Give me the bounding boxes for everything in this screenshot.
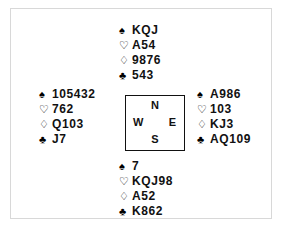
bridge-deal-diagram: ♠ KQJ ♡ A54 ♢ 9876 ♣ 543 ♠ 105432	[0, 0, 286, 229]
hand-north-clubs-row: ♣ 543	[119, 68, 161, 83]
diagram-frame: ♠ KQJ ♡ A54 ♢ 9876 ♣ 543 ♠ 105432	[10, 8, 272, 219]
spade-icon: ♠	[119, 159, 132, 174]
hand-south: ♠ 7 ♡ KQJ98 ♢ A52 ♣ K862	[119, 159, 173, 219]
hand-north: ♠ KQJ ♡ A54 ♢ 9876 ♣ 543	[119, 23, 161, 83]
hand-south-hearts-row: ♡ KQJ98	[119, 174, 173, 189]
hand-east-clubs: AQ109	[210, 132, 251, 147]
heart-icon: ♡	[197, 102, 210, 117]
hand-north-diamonds: 9876	[132, 53, 161, 68]
hand-east-hearts-row: ♡ 103	[197, 102, 251, 117]
hand-west-hearts: 762	[52, 102, 74, 117]
hand-east-spades-row: ♠ A986	[197, 87, 251, 102]
hand-east-diamonds-row: ♢ KJ3	[197, 117, 251, 132]
hand-west-spades-row: ♠ 105432	[39, 87, 96, 102]
hand-west-diamonds-row: ♢ Q103	[39, 117, 96, 132]
hand-south-spades: 7	[132, 159, 139, 174]
hand-south-diamonds-row: ♢ A52	[119, 189, 173, 204]
hand-east: ♠ A986 ♡ 103 ♢ KJ3 ♣ AQ109	[197, 87, 251, 147]
hand-east-hearts: 103	[210, 102, 232, 117]
hand-south-clubs-row: ♣ K862	[119, 204, 173, 219]
compass-box: N W E S	[125, 95, 185, 151]
hand-west-spades: 105432	[52, 87, 96, 102]
spade-icon: ♠	[39, 87, 52, 102]
club-icon: ♣	[39, 132, 52, 147]
hand-east-spades: A986	[210, 87, 241, 102]
hand-south-clubs: K862	[132, 204, 163, 219]
hand-west: ♠ 105432 ♡ 762 ♢ Q103 ♣ J7	[39, 87, 96, 147]
compass-label-west: W	[133, 117, 143, 128]
hand-west-clubs: J7	[52, 132, 67, 147]
hand-north-diamonds-row: ♢ 9876	[119, 53, 161, 68]
hand-west-clubs-row: ♣ J7	[39, 132, 96, 147]
compass-label-south: S	[126, 134, 184, 145]
club-icon: ♣	[119, 68, 132, 83]
hand-south-spades-row: ♠ 7	[119, 159, 173, 174]
spade-icon: ♠	[119, 23, 132, 38]
club-icon: ♣	[119, 204, 132, 219]
diamond-icon: ♢	[119, 189, 132, 204]
hand-south-diamonds: A52	[132, 189, 156, 204]
heart-icon: ♡	[119, 38, 132, 53]
hand-north-clubs: 543	[132, 68, 154, 83]
heart-icon: ♡	[39, 102, 52, 117]
hand-south-hearts: KQJ98	[132, 174, 173, 189]
hand-east-diamonds: KJ3	[210, 117, 234, 132]
hand-east-clubs-row: ♣ AQ109	[197, 132, 251, 147]
compass-label-east: E	[169, 117, 176, 128]
hand-north-hearts-row: ♡ A54	[119, 38, 161, 53]
heart-icon: ♡	[119, 174, 132, 189]
compass-label-north: N	[126, 100, 184, 111]
spade-icon: ♠	[197, 87, 210, 102]
hand-west-diamonds: Q103	[52, 117, 84, 132]
hand-west-hearts-row: ♡ 762	[39, 102, 96, 117]
diamond-icon: ♢	[197, 117, 210, 132]
diamond-icon: ♢	[119, 53, 132, 68]
diamond-icon: ♢	[39, 117, 52, 132]
hand-north-spades: KQJ	[132, 23, 158, 38]
hand-north-hearts: A54	[132, 38, 156, 53]
club-icon: ♣	[197, 132, 210, 147]
hand-north-spades-row: ♠ KQJ	[119, 23, 161, 38]
